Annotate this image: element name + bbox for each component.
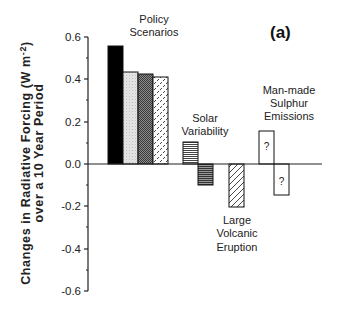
- category-label-policy: Policy: [139, 13, 169, 25]
- category-label-volcanic: Eruption: [217, 241, 258, 253]
- category-label-solar: Variability: [182, 125, 229, 137]
- uncertain-annotation: ?: [264, 141, 270, 152]
- tick-label: 0.0: [65, 158, 81, 170]
- bar-group-volcanic-eruption: [229, 164, 244, 207]
- tick-label: -0.4: [61, 243, 81, 255]
- category-label-sulphur: Man-made: [263, 84, 316, 96]
- bar: [183, 142, 198, 164]
- category-label-volcanic: Volcanic: [217, 227, 258, 239]
- radiative-forcing-chart: (a) Changes in Radiative Forcing (W m-2)…: [0, 0, 338, 316]
- bar-group-policy-scenarios: [108, 46, 168, 164]
- bar: [138, 74, 153, 164]
- y-tick-labels: 0.6 0.4 0.2 0.0 -0.2 -0.4 -0.6: [61, 31, 81, 297]
- bar: [198, 164, 213, 185]
- category-label-sulphur: Sulphur: [270, 97, 308, 109]
- category-label-sulphur: Emissions: [264, 110, 315, 122]
- y-axis-label-line2: over a 10 Year Period: [32, 84, 46, 223]
- category-label-solar: Solar: [192, 112, 218, 124]
- tick-label: -0.6: [61, 285, 81, 297]
- bar: [108, 46, 123, 164]
- bar: [229, 164, 244, 207]
- y-axis-label-line1: Changes in Radiative Forcing (W m-2): [18, 41, 33, 285]
- panel-label: (a): [270, 23, 291, 42]
- category-label-policy: Scenarios: [130, 26, 179, 38]
- tick-label: 0.6: [65, 31, 81, 43]
- bar: [153, 77, 168, 164]
- tick-label: 0.4: [65, 73, 82, 85]
- category-label-volcanic: Large: [223, 214, 251, 226]
- tick-label: 0.2: [65, 116, 81, 128]
- tick-label: -0.2: [61, 200, 81, 212]
- uncertain-annotation: ?: [279, 176, 285, 187]
- y-axis: [84, 37, 88, 291]
- y-axis-label: Changes in Radiative Forcing (W m-2) ove…: [18, 41, 46, 285]
- bar: [123, 72, 138, 164]
